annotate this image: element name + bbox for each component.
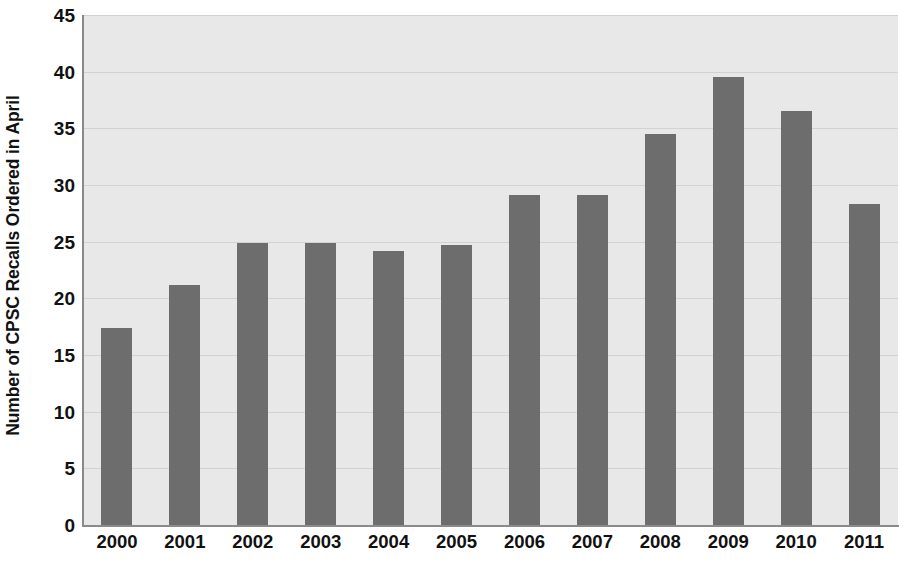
y-axis-title: Number of CPSC Recalls Ordered in April xyxy=(0,0,26,530)
x-axis-tick-label: 2009 xyxy=(708,532,749,552)
plot-area xyxy=(83,15,898,525)
y-axis-tick-label: 15 xyxy=(54,346,75,365)
bar xyxy=(101,328,132,525)
y-axis-tick-label: 10 xyxy=(54,402,75,421)
bar xyxy=(645,134,676,525)
x-axis-tick-label: 2008 xyxy=(640,532,681,552)
x-axis-tick-label: 2006 xyxy=(504,532,545,552)
y-axis-tick-label: 35 xyxy=(54,119,75,138)
bar xyxy=(441,245,472,525)
x-axis-tick-label: 2003 xyxy=(300,532,341,552)
bar xyxy=(781,111,812,525)
y-axis-tick-label: 20 xyxy=(54,289,75,308)
y-axis-tick-label: 30 xyxy=(54,176,75,195)
y-axis-tick-label: 0 xyxy=(64,516,75,535)
bar xyxy=(169,285,200,525)
bar xyxy=(849,204,880,525)
bars-layer xyxy=(83,15,898,525)
bar xyxy=(577,195,608,525)
bar-chart: Number of CPSC Recalls Ordered in April … xyxy=(0,0,906,575)
bar xyxy=(305,243,336,525)
y-axis-tick-label: 40 xyxy=(54,62,75,81)
bar xyxy=(373,251,404,525)
x-axis-line xyxy=(82,525,899,527)
bar xyxy=(713,77,744,525)
bar xyxy=(509,195,540,525)
y-axis-line xyxy=(82,15,84,526)
x-axis-tick-label: 2004 xyxy=(368,532,409,552)
x-axis-tick-label: 2000 xyxy=(96,532,137,552)
y-axis-tick-label: 5 xyxy=(64,459,75,478)
bar xyxy=(237,243,268,525)
x-axis-tick-label: 2001 xyxy=(164,532,205,552)
y-axis-tick-label: 25 xyxy=(54,232,75,251)
y-axis-tick-labels: 051015202530354045 xyxy=(26,0,81,575)
x-axis-tick-label: 2002 xyxy=(232,532,273,552)
x-axis-tick-labels: 2000200120022003200420052006200720082009… xyxy=(83,530,898,570)
x-axis-tick-label: 2005 xyxy=(436,532,477,552)
x-axis-tick-label: 2007 xyxy=(572,532,613,552)
x-axis-tick-label: 2010 xyxy=(776,532,817,552)
y-axis-tick-label: 45 xyxy=(54,6,75,25)
x-axis-tick-label: 2011 xyxy=(844,532,884,552)
y-axis-title-label: Number of CPSC Recalls Ordered in April xyxy=(3,95,24,436)
